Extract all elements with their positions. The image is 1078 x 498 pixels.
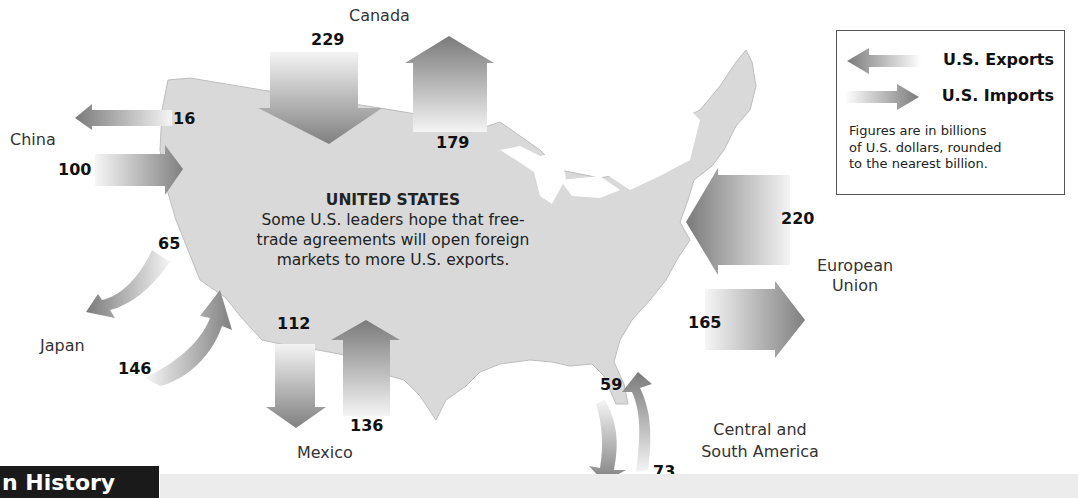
china-imports-value: 100 <box>58 160 91 179</box>
section-tab: n History <box>0 466 159 498</box>
mexico-imports-arrow <box>331 320 400 416</box>
eu-label: European Union <box>800 256 910 296</box>
legend-note-line2: of U.S. dollars, rounded <box>849 140 1002 155</box>
trade-map: Canada 229 179 China 16 100 Japan 65 146… <box>0 0 1078 498</box>
legend-exports: U.S. Exports <box>845 47 1060 75</box>
csa-label: Central and South America <box>690 419 830 463</box>
mexico-imports-value: 136 <box>350 416 383 435</box>
legend-exports-label: U.S. Exports <box>943 50 1054 69</box>
eu-label-line2: Union <box>832 276 878 295</box>
eu-exports-value: 220 <box>781 209 814 228</box>
japan-imports-arrow <box>145 290 232 386</box>
mexico-label: Mexico <box>297 443 353 462</box>
mexico-exports-arrow <box>266 344 326 428</box>
csa-label-line1: Central and <box>713 420 806 439</box>
legend-note-line1: Figures are in billions <box>849 123 986 138</box>
csa-exports-arrow <box>589 400 626 482</box>
japan-label: Japan <box>40 336 85 355</box>
japan-imports-value: 146 <box>118 359 151 378</box>
canada-label: Canada <box>349 6 410 25</box>
csa-exports-value: 59 <box>600 375 622 394</box>
legend-note-line3: to the nearest billion. <box>849 156 988 171</box>
canada-imports-arrow <box>405 36 494 132</box>
us-caption-line1: Some U.S. leaders hope that free- <box>261 211 524 229</box>
china-imports-arrow <box>95 145 183 195</box>
imports-arrow-icon <box>845 83 921 111</box>
legend-box: U.S. Exports U.S. Imports Figures are in… <box>836 30 1065 195</box>
china-exports-value: 16 <box>173 109 195 128</box>
legend-imports: U.S. Imports <box>845 83 1060 111</box>
eu-label-line1: European <box>817 256 893 275</box>
legend-imports-label: U.S. Imports <box>942 86 1054 105</box>
exports-arrow-icon <box>845 47 921 75</box>
us-caption-line3: markets to more U.S. exports. <box>277 251 510 269</box>
legend-note: Figures are in billions of U.S. dollars,… <box>849 123 1002 173</box>
mexico-exports-value: 112 <box>277 314 310 333</box>
us-caption-line2: trade agreements will open foreign <box>257 231 530 249</box>
canada-exports-value: 229 <box>311 30 344 49</box>
japan-exports-arrow <box>86 250 170 318</box>
csa-label-line2: South America <box>701 442 819 461</box>
csa-imports-arrow <box>622 372 652 472</box>
japan-exports-value: 65 <box>158 234 180 253</box>
eu-imports-value: 165 <box>688 313 721 332</box>
china-exports-arrow <box>75 104 172 130</box>
china-label: China <box>10 130 56 149</box>
us-title: UNITED STATES <box>248 190 538 210</box>
us-caption: UNITED STATES Some U.S. leaders hope tha… <box>248 190 538 270</box>
bottom-band <box>160 474 1078 498</box>
canada-imports-value: 179 <box>436 133 469 152</box>
eu-exports-arrow <box>686 168 790 275</box>
